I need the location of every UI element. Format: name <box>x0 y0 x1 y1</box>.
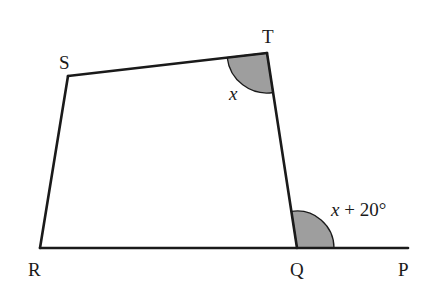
vertex-label-t: T <box>262 26 274 47</box>
angle-t-variable: x <box>228 83 238 104</box>
vertex-label-r: R <box>28 259 41 280</box>
vertex-label-q: Q <box>290 259 304 280</box>
edge-rs <box>40 76 68 248</box>
angle-label-t: x <box>228 83 238 104</box>
angle-q-expression: + 20° <box>339 199 386 220</box>
angle-q-exterior-shading <box>291 211 334 248</box>
quadrilateral-diagram: S T R Q P x x + 20° <box>0 0 432 301</box>
vertex-label-s: S <box>59 52 70 73</box>
angle-label-q: x + 20° <box>330 199 386 220</box>
vertex-label-p: P <box>398 259 409 280</box>
edge-tq <box>267 53 297 248</box>
